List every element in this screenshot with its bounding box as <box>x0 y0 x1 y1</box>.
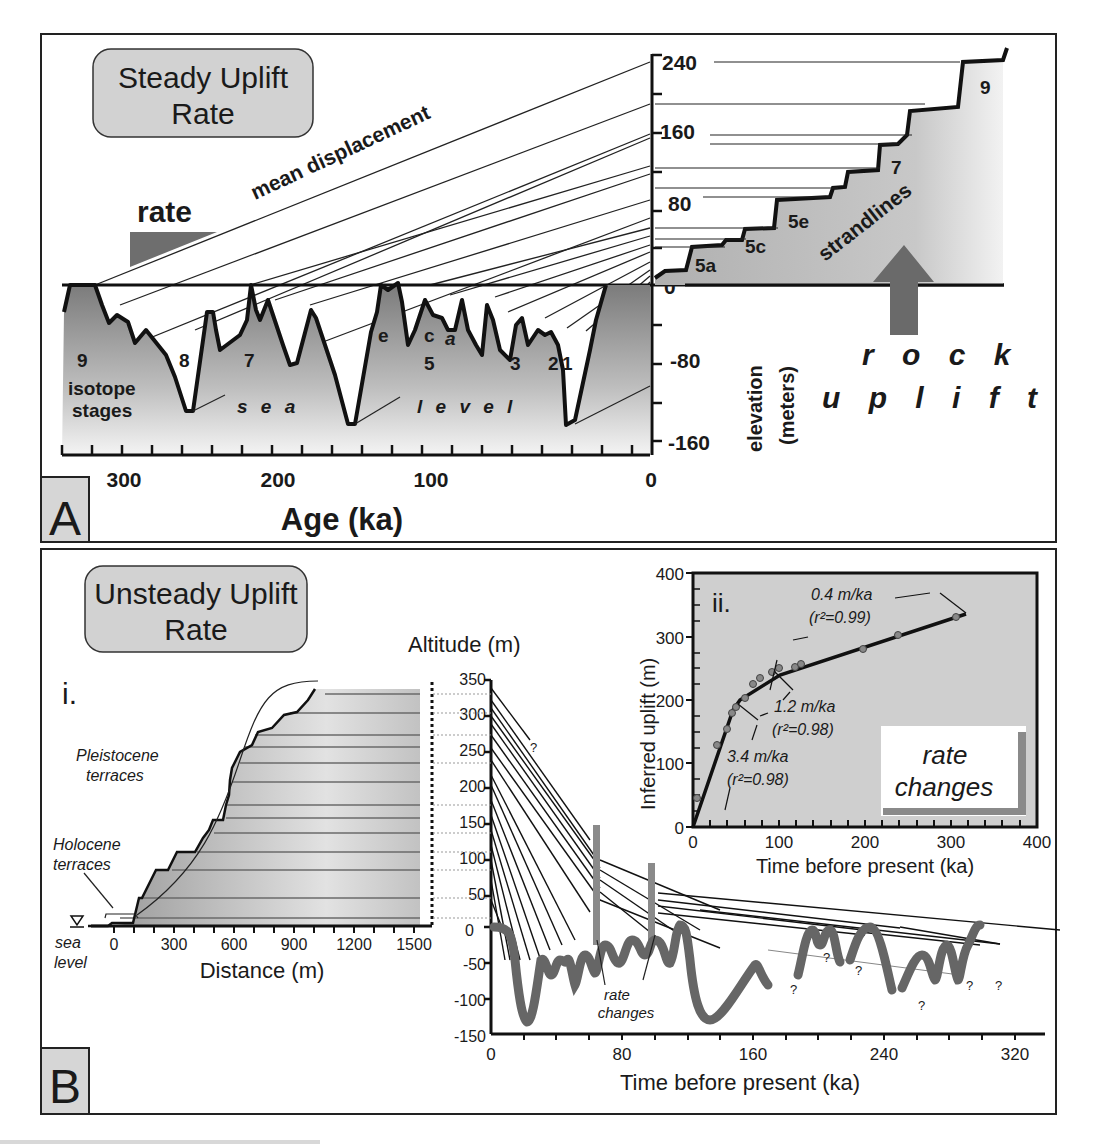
inset-y-tick-300: 300 <box>656 629 684 648</box>
distance-tick-1200: 1200 <box>336 936 372 953</box>
elev-tick-240: 240 <box>662 51 697 74</box>
time-tick-160: 160 <box>739 1045 767 1064</box>
elev-tick-160: 160 <box>660 120 695 143</box>
rate-changes-box-line1: rate <box>923 740 968 770</box>
inset-y-axis-label: Inferred uplift (m) <box>637 658 659 810</box>
inset-x-tick-100: 100 <box>765 833 793 852</box>
inset-y-tick-100: 100 <box>656 755 684 774</box>
panel-b-title-line2: Rate <box>164 613 227 646</box>
rate-change-bar-1 <box>593 825 600 945</box>
terrace-7: 7 <box>891 157 902 178</box>
level-label: l e v e l <box>417 396 516 417</box>
inset-r2-0.98a: (r²=0.98) <box>772 721 834 738</box>
rock-label: r o c k <box>862 338 1020 371</box>
stage-1: 1 <box>562 353 573 374</box>
time-tick-80: 80 <box>613 1045 632 1064</box>
rate-wedge <box>130 232 217 267</box>
elev-tick-minus160: -160 <box>668 431 710 454</box>
distance-axis-label: Distance (m) <box>200 958 325 983</box>
alt-tick-300: 300 <box>459 706 486 723</box>
sea-label: s e a <box>237 396 299 417</box>
alt-tick-150: 150 <box>459 814 486 831</box>
terrace-9: 9 <box>980 77 991 98</box>
sea-level-label-1: sea <box>55 934 81 951</box>
alt-tick-minus150: -150 <box>454 1028 486 1045</box>
alt-tick-minus50: -50 <box>463 956 486 973</box>
stage-5: 5 <box>424 353 435 374</box>
distance-tick-1500: 1500 <box>396 936 432 953</box>
stage-2: 2 <box>548 353 559 374</box>
inset-rate-0.4: 0.4 m/ka <box>811 586 872 603</box>
inset-y-tick-400: 400 <box>656 565 684 584</box>
panel-a: Steady Uplift Rate rate mean displacemen… <box>41 34 1056 545</box>
inset-rate-3.4: 3.4 m/ka <box>727 748 788 765</box>
elev-tick-minus80: -80 <box>670 349 700 372</box>
inset-x-axis-label: Time before present (ka) <box>756 855 974 877</box>
panel-a-title-line2: Rate <box>171 97 234 130</box>
age-tick-100: 100 <box>413 468 448 491</box>
age-tick-0: 0 <box>645 468 657 491</box>
holocene-arrow <box>84 873 113 908</box>
age-axis-label: Age (ka) <box>281 502 403 537</box>
inset-r2-0.98b: (r²=0.98) <box>727 771 789 788</box>
inset-r2-0.99: (r²=0.99) <box>809 609 871 626</box>
rate-changes-box-line2: changes <box>895 772 993 802</box>
inset-rate-1.2: 1.2 m/ka <box>774 698 835 715</box>
pleistocene-label: Pleistocene <box>76 747 159 764</box>
age-axis: 300 200 100 0 Age (ka) <box>62 445 657 537</box>
age-tick-200: 200 <box>260 468 295 491</box>
inset-uplift-chart: ii. 400 300 200 100 0 I <box>637 565 1051 877</box>
terrace-profile-fill <box>108 689 420 926</box>
altitude-axis: 350 300 250 200 150 100 50 0 -50 -100 -1… <box>433 671 491 1045</box>
stage-5a: a <box>445 328 456 349</box>
question-mark: ? <box>995 978 1002 993</box>
time-tick-0: 0 <box>486 1045 495 1064</box>
question-marks: ? ? ? ? ? ? <box>790 950 1002 1013</box>
figure-caption-clipped <box>0 1135 1094 1148</box>
alt-tick-250: 250 <box>459 742 486 759</box>
panel-a-title-line1: Steady Uplift <box>118 61 289 94</box>
uplift-label: u p l i f t <box>822 381 1047 414</box>
stage-3: 3 <box>510 353 521 374</box>
subpanel-i-label: i. <box>62 677 77 710</box>
distance-tick-900: 900 <box>281 936 308 953</box>
distance-axis: 0 300 600 900 1200 1500 Distance (m) <box>91 926 432 983</box>
rate-change-bar-2 <box>648 863 655 943</box>
question-mark: ? <box>855 963 862 978</box>
altitude-axis-label: Altitude (m) <box>408 632 520 657</box>
holocene-terraces-label: terraces <box>53 856 111 873</box>
rate-label: rate <box>137 195 192 228</box>
alt-tick-50: 50 <box>468 886 486 903</box>
inset-x-tick-300: 300 <box>937 833 965 852</box>
stage-7: 7 <box>244 350 255 371</box>
elevation-label-2: (meters) <box>776 366 798 445</box>
alt-tick-200: 200 <box>459 778 486 795</box>
distance-tick-300: 300 <box>161 936 188 953</box>
alt-tick-350: 350 <box>459 671 486 688</box>
inset-y-tick-200: 200 <box>656 692 684 711</box>
stages-label: stages <box>72 400 132 421</box>
question-mark: ? <box>790 982 797 997</box>
elevation-label-1: elevation <box>744 365 766 452</box>
stage-9: 9 <box>77 350 88 371</box>
panel-b-title-line1: Unsteady Uplift <box>94 577 298 610</box>
stage-5e: e <box>378 325 389 346</box>
time-tick-240: 240 <box>870 1045 898 1064</box>
holocene-label: Holocene <box>53 836 121 853</box>
inset-x-tick-200: 200 <box>851 833 879 852</box>
sea-level-marker-icon <box>71 916 83 925</box>
terrace-5a: 5a <box>695 255 717 276</box>
question-mark: ? <box>823 950 830 965</box>
inset-y-tick-0: 0 <box>675 819 684 838</box>
distance-tick-600: 600 <box>221 936 248 953</box>
stage-5c: c <box>424 325 435 346</box>
inset-x-tick-400: 400 <box>1023 833 1051 852</box>
alt-tick-100: 100 <box>459 850 486 867</box>
sea-level-label-2: level <box>54 954 87 971</box>
rate-changes-label-1: rate <box>604 986 630 1003</box>
rate-changes-label-2: changes <box>598 1004 655 1021</box>
question-mark-top: ? <box>530 740 537 755</box>
terrace-5c: 5c <box>745 236 767 257</box>
question-mark: ? <box>918 998 925 1013</box>
isotope-label: isotope <box>68 378 136 399</box>
